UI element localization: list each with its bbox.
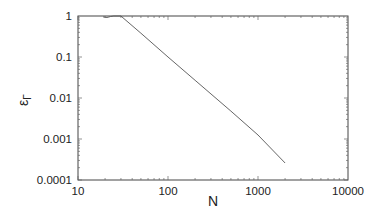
y-tick-label: 0.001 bbox=[43, 133, 72, 145]
x-axis-label: N bbox=[208, 193, 218, 209]
y-tick-label: 0.1 bbox=[56, 51, 72, 63]
plot-frame bbox=[78, 16, 348, 180]
x-tick-label: 10 bbox=[72, 185, 85, 197]
y-tick-label: 1 bbox=[66, 10, 72, 22]
y-tick-labels: 10.10.010.0010.0001 bbox=[37, 10, 72, 186]
axis-ticks bbox=[78, 16, 348, 180]
log-log-line-chart: 10.10.010.0010.0001 10100100010000 N εΓ bbox=[0, 0, 384, 221]
x-tick-label: 1000 bbox=[245, 185, 271, 197]
y-axis-label: εΓ bbox=[15, 94, 33, 106]
x-tick-label: 10000 bbox=[332, 185, 364, 197]
x-tick-label: 100 bbox=[158, 185, 177, 197]
data-line bbox=[103, 16, 285, 163]
y-tick-label: 0.0001 bbox=[37, 174, 72, 186]
y-tick-label: 0.01 bbox=[50, 92, 72, 104]
svg-text:εΓ: εΓ bbox=[15, 94, 33, 106]
